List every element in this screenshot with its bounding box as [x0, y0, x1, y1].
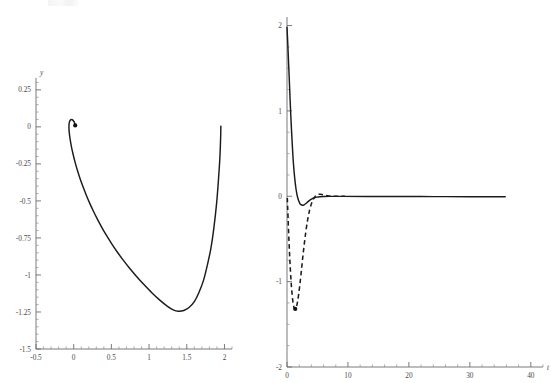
- trajectory-endpoint-marker: [73, 123, 77, 127]
- left-plot-svg: -0.500.511.52-1.5-1.25-1-0.75-0.5-0.2500…: [0, 0, 275, 383]
- data-curve-solution-solid: [287, 27, 505, 205]
- x-axis-tick-label: 0: [72, 353, 76, 362]
- y-axis-tick-label: -1: [276, 277, 282, 286]
- x-axis-tick-label: 0: [285, 371, 289, 380]
- y-axis-tick-label: -2: [276, 363, 282, 372]
- y-axis-tick-label: -1.25: [16, 308, 32, 317]
- x-axis-tick-label: 40: [527, 371, 535, 380]
- left-labels-group: -0.500.511.52-1.5-1.25-1-0.75-0.5-0.2500…: [16, 68, 227, 362]
- x-axis-tick-label: 30: [466, 371, 474, 380]
- y-axis-tick-label: -1.5: [19, 345, 31, 354]
- x-axis-tick-label: 2: [223, 353, 227, 362]
- x-axis-tick-label: 0.5: [107, 353, 116, 362]
- x-axis-tick-label: 20: [405, 371, 413, 380]
- right-curves-group: [287, 27, 505, 309]
- y-axis-tick-label: -0.5: [19, 197, 31, 206]
- left-annotations-group: [73, 123, 77, 127]
- figure-container: -0.500.511.52-1.5-1.25-1-0.75-0.5-0.2500…: [0, 0, 551, 383]
- data-curve-derivative-dashed: [287, 194, 345, 309]
- y-axis-tick-label: 2: [278, 21, 282, 30]
- right-axes-group: [287, 17, 543, 367]
- y-axis-name-label: y: [39, 68, 44, 77]
- y-axis-tick-label: -1: [25, 271, 31, 280]
- right-annotations-group: [293, 307, 297, 311]
- left-axes-group: [36, 78, 232, 349]
- left-plot-panel: -0.500.511.52-1.5-1.25-1-0.75-0.5-0.2500…: [0, 0, 275, 383]
- x-axis-name-label: t: [547, 363, 550, 372]
- right-plot-panel: 010203040-2-1012t: [275, 0, 551, 383]
- data-curve-phase-trajectory: [69, 120, 221, 312]
- y-axis-tick-label: 0: [278, 192, 282, 201]
- y-axis-tick-label: -0.75: [16, 234, 32, 243]
- x-axis-tick-label: 10: [344, 371, 352, 380]
- x-axis-tick-label: -0.5: [30, 353, 42, 362]
- y-axis-tick-label: -0.25: [16, 159, 32, 168]
- y-axis-tick-label: 0: [27, 122, 31, 131]
- x-axis-tick-label: 1.5: [182, 353, 191, 362]
- right-plot-svg: 010203040-2-1012t: [275, 0, 551, 383]
- left-curves-group: [69, 120, 221, 312]
- x-axis-tick-label: 1: [147, 353, 151, 362]
- dashed-curve-minimum-marker: [293, 307, 297, 311]
- y-axis-tick-label: 0.25: [18, 85, 31, 94]
- y-axis-tick-label: 1: [278, 107, 282, 116]
- right-labels-group: 010203040-2-1012t: [276, 21, 550, 380]
